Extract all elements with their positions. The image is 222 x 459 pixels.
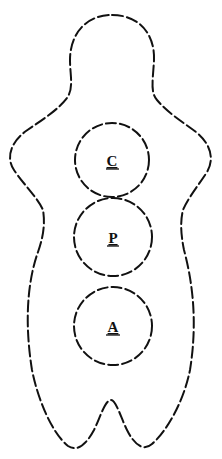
region-a: A [74, 287, 152, 365]
region-p: P [74, 198, 152, 276]
region-a-label: A [108, 319, 119, 335]
body-diagram: C P A [0, 0, 222, 459]
region-c-label: C [107, 153, 118, 169]
region-c: C [75, 123, 149, 197]
region-p-label: P [108, 230, 117, 246]
